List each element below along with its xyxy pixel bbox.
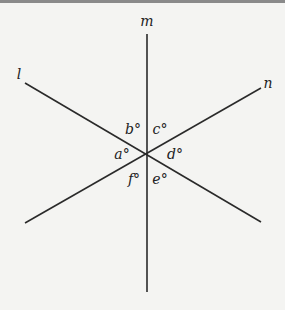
angle-b: b° — [125, 121, 141, 137]
label-line-m: m — [140, 13, 153, 29]
intersecting-lines-diagram: m l n b° c° a° d° f° e° — [0, 0, 285, 310]
angle-e: e° — [152, 171, 167, 187]
angle-d: d° — [167, 146, 183, 162]
label-line-l: l — [17, 66, 21, 82]
line-l — [25, 83, 261, 222]
line-n — [25, 88, 261, 223]
angle-f: f° — [127, 171, 140, 187]
angle-a: a° — [114, 146, 129, 162]
angle-c: c° — [153, 121, 168, 137]
label-line-n: n — [263, 75, 272, 91]
